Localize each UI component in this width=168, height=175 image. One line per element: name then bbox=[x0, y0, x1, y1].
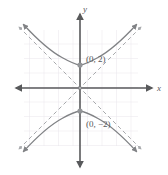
graph-canvas: (0, 2) (0, −2) x y bbox=[0, 0, 168, 175]
hyperbola-figure: (0, 2) (0, −2) x y bbox=[0, 0, 168, 175]
vertex-point-lower bbox=[77, 108, 82, 113]
y-axis-label: y bbox=[82, 4, 87, 14]
vertex-label-lower: (0, −2) bbox=[86, 119, 111, 129]
x-axis-label: x bbox=[156, 83, 161, 93]
vertex-label-upper: (0, 2) bbox=[86, 54, 106, 64]
vertex-point-upper bbox=[77, 62, 82, 67]
